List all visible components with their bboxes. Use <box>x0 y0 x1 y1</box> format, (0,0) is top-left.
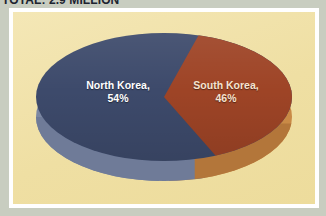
pie-label-south-korea-value: 46% <box>176 92 276 105</box>
pie-label-south-korea-name: South Korea, <box>176 79 276 92</box>
pie-label-north-korea-value: 54% <box>66 92 170 105</box>
chart-plot-area: North Korea, 54% South Korea, 46% <box>13 12 315 204</box>
page-title: TOTAL: 2.9 MILLION <box>2 0 119 7</box>
pie-chart: North Korea, 54% South Korea, 46% <box>36 33 292 183</box>
pie-label-north-korea-name: North Korea, <box>66 79 170 92</box>
chart-title-strip: TOTAL: 2.9 MILLION <box>0 0 326 7</box>
pie-label-south-korea: South Korea, 46% <box>176 79 276 105</box>
chart-card: North Korea, 54% South Korea, 46% <box>9 8 319 208</box>
pie-label-north-korea: North Korea, 54% <box>66 79 170 105</box>
